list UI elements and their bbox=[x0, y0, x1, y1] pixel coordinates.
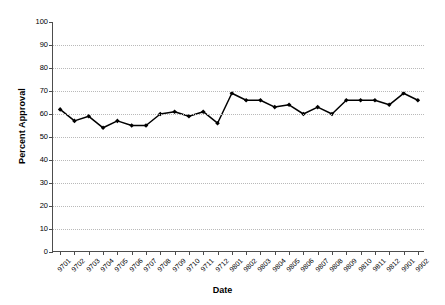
plot-area bbox=[52, 22, 424, 252]
y-tick-label-60: 60 bbox=[24, 110, 48, 118]
gridline-70 bbox=[53, 91, 424, 92]
y-tickmark-80 bbox=[49, 68, 53, 69]
y-tickmark-40 bbox=[49, 160, 53, 161]
y-tick-label-0: 0 bbox=[24, 248, 48, 256]
x-tick-label-9807: 9807 bbox=[314, 257, 331, 274]
x-tick-label-9702: 9702 bbox=[70, 257, 87, 274]
y-tickmark-30 bbox=[49, 183, 53, 184]
x-tick-label-9712: 9712 bbox=[214, 257, 231, 274]
y-tick-label-40: 40 bbox=[24, 156, 48, 164]
data-point-9706 bbox=[129, 123, 134, 128]
x-tick-label-9704: 9704 bbox=[99, 257, 116, 274]
x-tick-label-9805: 9805 bbox=[285, 257, 302, 274]
y-axis-tick-labels: 1009080706050403020100 bbox=[24, 0, 48, 305]
x-tick-label-9707: 9707 bbox=[142, 257, 159, 274]
approval-rating-line-chart: Percent Approval 1009080706050403020100 … bbox=[0, 0, 445, 305]
y-tick-label-90: 90 bbox=[24, 41, 48, 49]
y-tickmark-50 bbox=[49, 137, 53, 138]
gridline-50 bbox=[53, 137, 424, 138]
x-tick-label-9809: 9809 bbox=[342, 257, 359, 274]
x-tick-label-9711: 9711 bbox=[200, 257, 216, 273]
x-tick-label-9803: 9803 bbox=[256, 257, 273, 274]
x-tick-label-9901: 9901 bbox=[400, 257, 417, 274]
x-tick-label-9808: 9808 bbox=[328, 257, 345, 274]
x-tick-label-9709: 9709 bbox=[171, 257, 188, 274]
y-tickmark-70 bbox=[49, 91, 53, 92]
x-tick-label-9802: 9802 bbox=[242, 257, 259, 274]
data-point-9810 bbox=[358, 98, 363, 103]
y-tick-label-70: 70 bbox=[24, 87, 48, 95]
y-tick-label-10: 10 bbox=[24, 225, 48, 233]
y-tickmark-60 bbox=[49, 114, 53, 115]
x-tick-label-9811: 9811 bbox=[371, 257, 387, 273]
y-tickmark-20 bbox=[49, 206, 53, 207]
gridline-20 bbox=[53, 206, 424, 207]
y-tick-label-30: 30 bbox=[24, 179, 48, 187]
x-tick-label-9703: 9703 bbox=[85, 257, 102, 274]
y-tickmark-100 bbox=[49, 22, 53, 23]
x-tick-label-9710: 9710 bbox=[185, 257, 202, 274]
x-tick-label-9804: 9804 bbox=[271, 257, 288, 274]
x-tick-label-9701: 9701 bbox=[56, 257, 73, 274]
x-tick-label-9801: 9801 bbox=[228, 257, 245, 274]
y-tick-label-50: 50 bbox=[24, 133, 48, 141]
data-point-9811 bbox=[373, 98, 378, 103]
x-tick-label-9706: 9706 bbox=[128, 257, 145, 274]
y-tickmark-10 bbox=[49, 229, 53, 230]
x-tick-label-9812: 9812 bbox=[385, 257, 402, 274]
x-tick-label-9806: 9806 bbox=[299, 257, 316, 274]
y-tick-label-80: 80 bbox=[24, 64, 48, 72]
y-tick-label-100: 100 bbox=[24, 18, 48, 26]
y-tick-label-20: 20 bbox=[24, 202, 48, 210]
gridline-90 bbox=[53, 45, 424, 46]
data-point-9804 bbox=[272, 105, 277, 110]
gridline-60 bbox=[53, 114, 424, 115]
x-tick-label-9705: 9705 bbox=[113, 257, 130, 274]
gridline-30 bbox=[53, 183, 424, 184]
gridline-80 bbox=[53, 68, 424, 69]
data-point-9803 bbox=[258, 98, 263, 103]
y-tickmark-90 bbox=[49, 45, 53, 46]
x-tick-label-9810: 9810 bbox=[357, 257, 374, 274]
data-point-9705 bbox=[115, 119, 120, 124]
gridline-10 bbox=[53, 229, 424, 230]
x-axis-title: Date bbox=[0, 285, 445, 295]
data-point-9802 bbox=[244, 98, 249, 103]
x-tick-label-9708: 9708 bbox=[156, 257, 173, 274]
gridline-40 bbox=[53, 160, 424, 161]
series-line bbox=[60, 93, 418, 128]
x-tick-label-9902: 9902 bbox=[414, 257, 431, 274]
